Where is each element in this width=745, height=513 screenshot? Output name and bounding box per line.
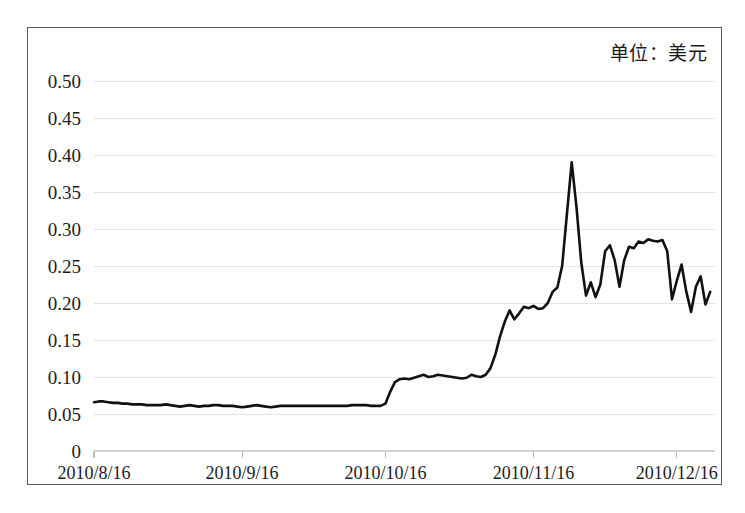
y-axis-tick-label: 0.45 bbox=[48, 108, 81, 129]
x-axis-tick-label: 2010/10/16 bbox=[344, 463, 426, 483]
plot-canvas: 0.500.450.400.350.300.250.200.150.100.05… bbox=[28, 28, 723, 486]
x-axis-ticks-group bbox=[94, 451, 677, 458]
x-axis-tick-label: 2010/12/16（日期） bbox=[636, 463, 723, 483]
x-axis-tick-label: 2010/11/16 bbox=[493, 463, 574, 483]
x-axis-tick-labels: 2010/8/162010/9/162010/10/162010/11/1620… bbox=[57, 463, 723, 483]
y-axis-tick-label: 0 bbox=[72, 441, 82, 462]
figure-root: 单位：美元 0.500.450.400.350.300.250.200.150.… bbox=[0, 0, 745, 513]
line-chart-svg: 0.500.450.400.350.300.250.200.150.100.05… bbox=[28, 28, 723, 486]
y-axis-tick-label: 0.20 bbox=[48, 293, 81, 314]
y-axis-tick-label: 0.15 bbox=[48, 330, 81, 351]
gridlines-group bbox=[94, 81, 715, 451]
series-line-price bbox=[94, 162, 710, 407]
y-axis-tick-label: 0.25 bbox=[48, 256, 81, 277]
x-axis-tick-label: 2010/9/16 bbox=[206, 463, 279, 483]
y-axis-tick-label: 0.40 bbox=[48, 145, 81, 166]
chart-frame: 单位：美元 0.500.450.400.350.300.250.200.150.… bbox=[27, 27, 722, 485]
y-axis-tick-label: 0.50 bbox=[48, 71, 81, 92]
y-axis-tick-label: 0.05 bbox=[48, 404, 81, 425]
y-axis-tick-label: 0.30 bbox=[48, 219, 81, 240]
y-axis-tick-label: 0.10 bbox=[48, 367, 81, 388]
y-axis-tick-labels: 0.500.450.400.350.300.250.200.150.100.05… bbox=[48, 71, 81, 462]
x-axis-tick-label: 2010/8/16 bbox=[57, 463, 130, 483]
y-axis-tick-label: 0.35 bbox=[48, 182, 81, 203]
